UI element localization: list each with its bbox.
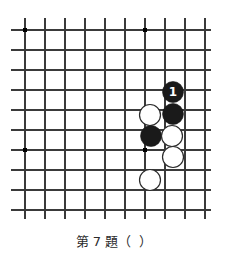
go-problem-figure: 1 第 7 題（ ） bbox=[0, 0, 228, 255]
hoshi-top-right-star-point-icon bbox=[143, 28, 147, 32]
white-stone-disc[interactable] bbox=[163, 147, 184, 168]
go-board-canvas[interactable]: 1 bbox=[0, 0, 228, 228]
caption-text: 第 7 題（ ） bbox=[76, 235, 153, 248]
white-stone-disc[interactable] bbox=[140, 105, 161, 126]
black-stone-disc[interactable] bbox=[163, 104, 184, 125]
board-background bbox=[0, 0, 228, 228]
stone-move-number-label: 1 bbox=[169, 85, 177, 99]
stone-black[interactable] bbox=[141, 126, 162, 147]
figure-caption: 第 7 題（ ） bbox=[0, 228, 228, 255]
stone-black[interactable] bbox=[163, 104, 184, 125]
stone-white[interactable] bbox=[162, 126, 183, 147]
white-stone-disc[interactable] bbox=[162, 126, 183, 147]
stone-white[interactable] bbox=[163, 147, 184, 168]
white-stone-disc[interactable] bbox=[140, 170, 161, 191]
hoshi-bottom-left-star-point-icon bbox=[23, 148, 27, 152]
stone-white[interactable] bbox=[140, 170, 161, 191]
stone-black[interactable]: 1 bbox=[163, 82, 184, 103]
black-stone-disc[interactable] bbox=[141, 126, 162, 147]
go-board[interactable]: 1 bbox=[0, 0, 228, 228]
hoshi-top-left-star-point-icon bbox=[23, 28, 27, 32]
hoshi-bottom-right-star-point-icon bbox=[143, 148, 147, 152]
stone-white[interactable] bbox=[140, 105, 161, 126]
